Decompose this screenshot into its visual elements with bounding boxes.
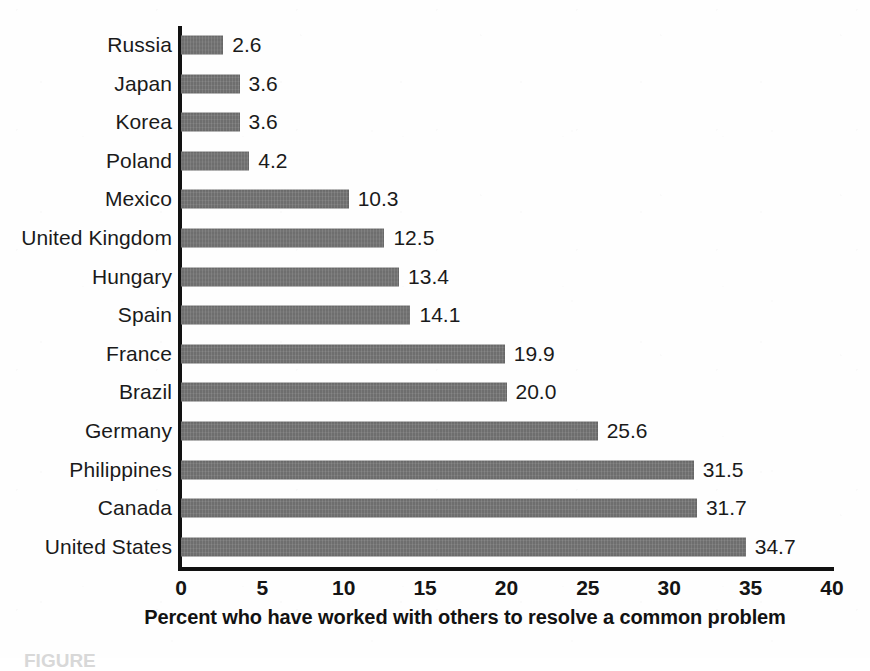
- category-label: Mexico: [105, 187, 172, 211]
- bar-value-label: 19.9: [514, 342, 555, 366]
- bar-value-label: 25.6: [607, 419, 648, 443]
- bar-value-label: 31.5: [703, 458, 744, 482]
- bar-row: France19.9: [0, 335, 870, 373]
- figure-caption: FIGURE: [24, 650, 96, 671]
- category-label: Brazil: [119, 380, 172, 404]
- bar-row: United Kingdom12.5: [0, 219, 870, 257]
- category-label: Spain: [118, 303, 172, 327]
- category-label: Korea: [115, 110, 172, 134]
- x-axis-title: Percent who have worked with others to r…: [0, 606, 870, 629]
- bar-value-label: 4.2: [258, 149, 287, 173]
- category-label: Canada: [98, 496, 172, 520]
- bar: [181, 151, 249, 170]
- category-label: United States: [45, 535, 172, 559]
- x-axis-tick-label: 0: [175, 576, 187, 600]
- bar: [181, 460, 694, 479]
- x-axis-tick-label: 10: [332, 576, 355, 600]
- bar-value-label: 10.3: [358, 187, 399, 211]
- bar-value-label: 3.6: [249, 72, 278, 96]
- bar-row: Poland4.2: [0, 142, 870, 180]
- category-label: United Kingdom: [21, 226, 172, 250]
- bar: [181, 422, 598, 441]
- bar-row: Spain14.1: [0, 296, 870, 334]
- bar-row: Mexico10.3: [0, 180, 870, 218]
- bar-value-label: 31.7: [706, 496, 747, 520]
- category-label: Hungary: [92, 265, 172, 289]
- bar: [181, 499, 697, 518]
- bar-row: Hungary13.4: [0, 258, 870, 296]
- bar-value-label: 34.7: [755, 535, 796, 559]
- category-label: Germany: [85, 419, 172, 443]
- bar-value-label: 13.4: [408, 265, 449, 289]
- x-axis-tick-label: 30: [658, 576, 681, 600]
- bar-value-label: 3.6: [249, 110, 278, 134]
- bar: [181, 74, 240, 93]
- category-label: Philippines: [69, 458, 172, 482]
- bar-row: Germany25.6: [0, 412, 870, 450]
- bar: [181, 383, 507, 402]
- bar-row: Philippines31.5: [0, 451, 870, 489]
- bar-row: Russia2.6: [0, 26, 870, 64]
- category-label: Japan: [114, 72, 172, 96]
- bar-row: Korea3.6: [0, 103, 870, 141]
- bar-row: United States34.7: [0, 528, 870, 566]
- bar-value-label: 14.1: [419, 303, 460, 327]
- x-axis-line: [178, 567, 834, 571]
- x-axis-tick-label: 40: [820, 576, 843, 600]
- bar-value-label: 2.6: [232, 33, 261, 57]
- bar: [181, 190, 349, 209]
- category-label: Poland: [106, 149, 172, 173]
- bar: [181, 113, 240, 132]
- x-axis-tick-label: 20: [495, 576, 518, 600]
- x-axis-tick-label: 25: [576, 576, 599, 600]
- bar: [181, 267, 399, 286]
- bar: [181, 229, 384, 248]
- bar-value-label: 12.5: [393, 226, 434, 250]
- bar: [181, 36, 223, 55]
- bar-row: Canada31.7: [0, 489, 870, 527]
- bar: [181, 537, 746, 556]
- bar: [181, 344, 505, 363]
- bar-row: Brazil20.0: [0, 373, 870, 411]
- bar-row: Japan3.6: [0, 65, 870, 103]
- x-axis-tick-label: 15: [413, 576, 436, 600]
- category-label: France: [106, 342, 172, 366]
- bar: [181, 306, 410, 325]
- bar-value-label: 20.0: [516, 380, 557, 404]
- x-axis-tick-label: 35: [739, 576, 762, 600]
- x-axis-tick-label: 5: [257, 576, 269, 600]
- category-label: Russia: [107, 33, 172, 57]
